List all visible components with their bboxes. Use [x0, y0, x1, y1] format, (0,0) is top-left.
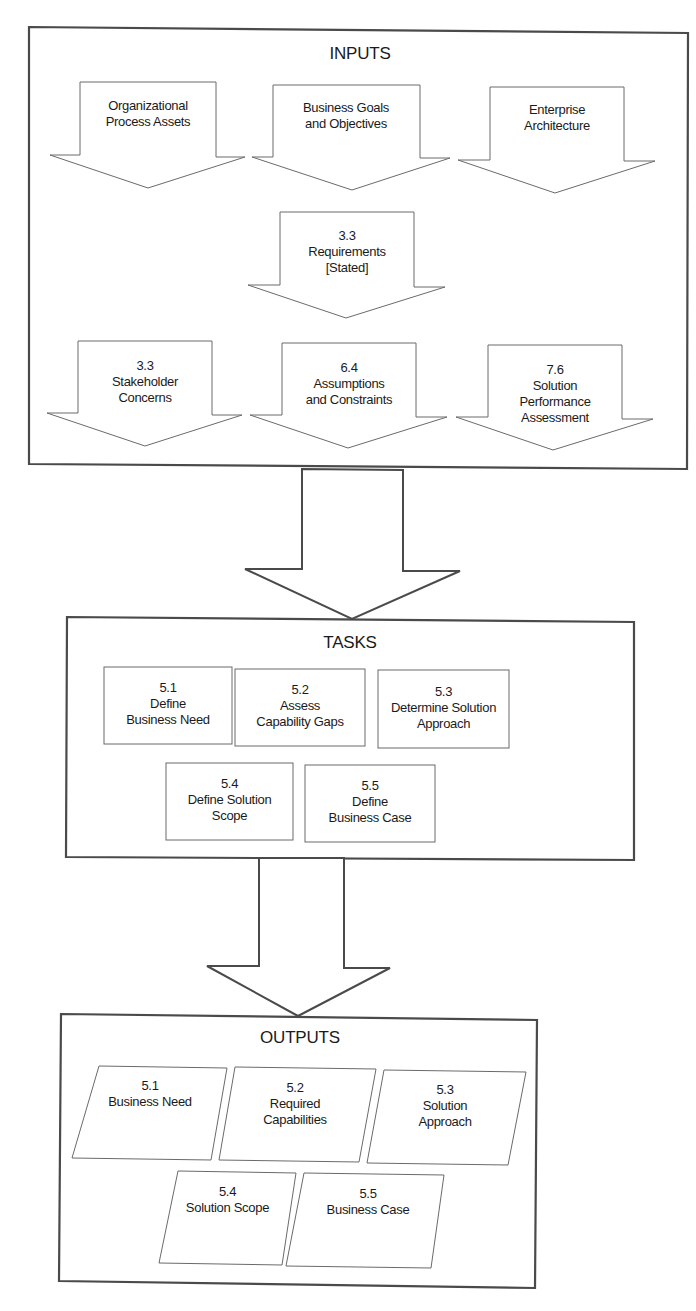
flow-arrow-inputs-to-tasks — [245, 469, 460, 619]
inputs-title: INPUTS — [300, 44, 420, 64]
input-label-organizational-process-assets: Organizational Process Assets — [70, 98, 226, 130]
task-label-5-1: 5.1 Define Business Need — [104, 680, 232, 728]
input-label-business-goals: Business Goals and Objectives — [266, 100, 426, 132]
tasks-title: TASKS — [290, 633, 410, 653]
task-label-5-2: 5.2 Assess Capability Gaps — [235, 682, 365, 730]
task-label-5-3: 5.3 Determine Solution Approach — [378, 684, 509, 732]
output-label-5-3: 5.3 Solution Approach — [375, 1082, 515, 1130]
input-label-requirements-stated: 3.3 Requirements [Stated] — [270, 228, 424, 276]
input-label-assumptions-constraints: 6.4 Assumptions and Constraints — [272, 360, 426, 408]
flow-arrow-tasks-to-outputs — [207, 858, 390, 1016]
task-label-5-5: 5.5 Define Business Case — [305, 778, 435, 826]
task-label-5-4: 5.4 Define Solution Scope — [166, 776, 293, 824]
outputs-title: OUTPUTS — [240, 1028, 360, 1048]
input-label-stakeholder-concerns: 3.3 Stakeholder Concerns — [68, 358, 222, 406]
output-label-5-4: 5.4 Solution Scope — [160, 1184, 295, 1216]
input-label-solution-performance-assessment: 7.6 Solution Performance Assessment — [478, 362, 632, 426]
output-label-5-2: 5.2 Required Capabilities — [225, 1080, 365, 1128]
output-label-5-1: 5.1 Business Need — [80, 1078, 220, 1110]
input-label-enterprise-architecture: Enterprise Architecture — [480, 102, 634, 134]
output-label-5-5: 5.5 Business Case — [298, 1186, 438, 1218]
